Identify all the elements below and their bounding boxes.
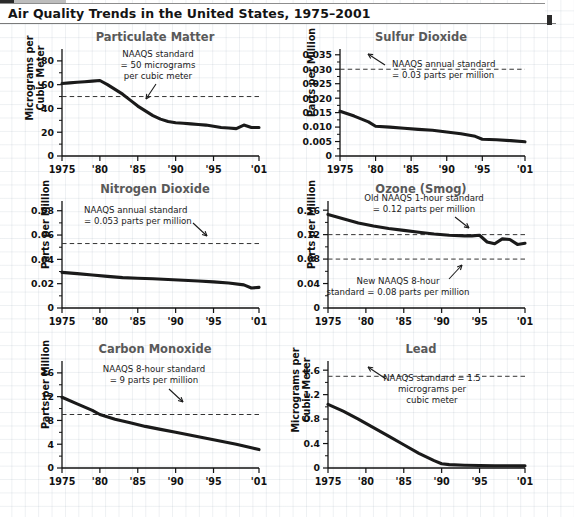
y-tick-label: 0.015 [303, 107, 332, 118]
x-tick-label: '90 [168, 476, 185, 487]
x-tick-label: '95 [471, 316, 487, 327]
annotation-arrow-secondary [449, 265, 462, 279]
x-tick-label: '85 [396, 316, 412, 327]
x-tick-label: '80 [358, 476, 375, 487]
plot-area: 00.40.81.21.61975'80'85'90'95'01NAAQS st… [272, 339, 542, 502]
data-series-line [62, 397, 259, 449]
x-tick-label: 1975 [327, 164, 354, 175]
chart-grid: Particulate MatterMicrograms per Cubic M… [0, 27, 540, 517]
x-tick-label: '85 [130, 316, 146, 327]
x-tick-label: '80 [92, 164, 109, 175]
source-note: SOURCES: Council on Environmental Qualit… [546, 0, 572, 8]
y-tick-label: 0.025 [303, 78, 332, 89]
y-tick-label: 80 [41, 55, 54, 66]
y-tick-label: 0 [326, 150, 333, 161]
y-tick-label: 0 [314, 462, 321, 473]
chart-lead: LeadMicrograms per Cubic Meter00.40.81.2… [272, 339, 542, 502]
x-tick-label: '85 [130, 476, 146, 487]
x-tick-label: 1975 [49, 316, 76, 327]
x-tick-label: '95 [205, 316, 221, 327]
annotation-text: micrograms per [398, 384, 467, 394]
annotation-arrow [368, 54, 385, 65]
y-tick-label: 0.04 [31, 254, 54, 265]
chart-sulfur-dioxide: Sulfur DioxideParts per Million00.0050.0… [272, 27, 542, 190]
annotation-text: = 50 micrograms [121, 60, 196, 70]
y-tick-label: 0.08 [297, 253, 320, 264]
annotation-text: NAAQS standard [122, 49, 193, 59]
y-tick-label: 0.4 [304, 438, 321, 449]
annotation-arrow [169, 389, 183, 402]
x-tick-label: '01 [517, 476, 534, 487]
y-tick-label: 0.030 [303, 64, 333, 75]
annotation-text: = 0.12 parts per million [373, 204, 475, 214]
y-tick-label: 4 [48, 439, 55, 450]
chart-carbon-monoxide: Carbon MonoxideParts per Million04812161… [6, 339, 276, 502]
annotation-text: = 0.03 parts per million [392, 70, 494, 80]
y-tick-label: 0 [48, 462, 55, 473]
y-tick-label: 0.8 [304, 413, 320, 424]
annotation-arrow [193, 223, 207, 236]
y-tick-label: 8 [48, 415, 54, 426]
data-series-line [328, 214, 525, 244]
data-series-line [340, 111, 525, 142]
x-tick-label: '80 [92, 476, 109, 487]
x-tick-label: '01 [251, 316, 268, 327]
y-tick-label: 1.6 [304, 365, 320, 376]
x-tick-label: 1975 [49, 476, 76, 487]
chart-ozone-smog: Ozone (Smog)Parts per Million00.040.080.… [272, 179, 542, 342]
x-tick-label: 1975 [315, 476, 342, 487]
annotation-text-secondary: New NAAQS 8-hour [357, 276, 440, 286]
chart-nitrogen-dioxide: Nitrogen DioxideParts per Million00.020.… [6, 179, 276, 342]
data-series-line [62, 272, 259, 288]
x-tick-label: '90 [434, 476, 451, 487]
y-tick-label: 0.005 [303, 136, 332, 147]
y-tick-label: 0.020 [303, 93, 333, 104]
annotation-text: NAAQS annual standard [84, 205, 187, 215]
y-tick-label: 0.12 [297, 229, 320, 240]
y-tick-label: 60 [41, 79, 54, 90]
annotation-text: NAAQS standard = 1.5 [383, 373, 481, 383]
source-note-text: SOURCES: Council on Environmental Qualit… [549, 0, 572, 8]
x-tick-label: '01 [517, 164, 534, 175]
x-tick-label: '90 [439, 164, 456, 175]
data-series-line [62, 81, 259, 129]
annotation-text-secondary: standard = 0.08 parts per million [326, 287, 469, 297]
annotation-arrow [455, 217, 469, 228]
x-tick-label: '85 [130, 164, 146, 175]
y-tick-label: 0.04 [297, 278, 320, 289]
x-tick-label: '01 [517, 316, 534, 327]
annotation-text: cubic meter [406, 395, 458, 405]
y-tick-label: 0 [48, 150, 55, 161]
plot-area: 0204060801975'80'85'90'95'01NAAQS standa… [6, 27, 276, 190]
plot-area: 04812161975'80'85'90'95'01NAAQS 8-hour s… [6, 339, 276, 502]
annotation-text: NAAQS 8-hour standard [103, 364, 205, 374]
x-tick-label: 1975 [315, 316, 342, 327]
y-tick-label: 0.06 [31, 229, 54, 240]
annotation-text: NAAQS annual standard [392, 59, 495, 69]
plot-area: 00.020.040.060.081975'80'85'90'95'01NAAQ… [6, 179, 276, 342]
annotation-text: Old NAAQS 1-hour standard [364, 193, 484, 203]
y-tick-label: 20 [41, 127, 54, 138]
y-tick-label: 0 [48, 302, 55, 313]
plot-area: 00.0050.0100.0150.0200.0250.0300.0351975… [272, 27, 542, 190]
x-tick-label: '01 [251, 164, 268, 175]
x-tick-label: '95 [471, 476, 487, 487]
y-tick-label: 0.035 [303, 49, 332, 60]
y-tick-label: 0.02 [31, 278, 54, 289]
infographic-page: Air Quality Trends in the United States,… [0, 0, 574, 517]
title-rule-top [0, 3, 545, 4]
x-tick-label: 1975 [49, 164, 76, 175]
x-tick-label: '80 [358, 316, 375, 327]
annotation-text: = 0.053 parts per million [84, 216, 192, 226]
annotation-text: per cubic meter [124, 71, 193, 81]
data-series-line [328, 404, 525, 465]
x-tick-label: '80 [367, 164, 384, 175]
x-tick-label: '90 [168, 316, 185, 327]
x-tick-label: '90 [434, 316, 451, 327]
title-rule-bottom [0, 23, 556, 24]
x-tick-label: '90 [168, 164, 185, 175]
x-tick-label: '85 [403, 164, 419, 175]
title-bar: Air Quality Trends in the United States,… [0, 0, 574, 27]
y-tick-label: 0.010 [303, 121, 333, 132]
x-tick-label: '95 [205, 476, 221, 487]
